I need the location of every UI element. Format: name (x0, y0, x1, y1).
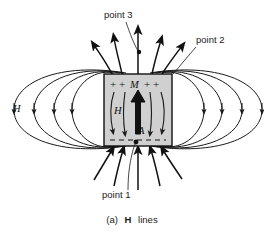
figure-root: + + M + + H A H point 3 (0, 0, 264, 233)
point-2-label: point 2 (196, 34, 225, 45)
top-arrow-2 (114, 38, 122, 74)
plus-sign-4: + (153, 78, 159, 90)
plus-sign-2: + (119, 78, 125, 90)
point-3-label: point 3 (104, 9, 133, 20)
caption-suffix: lines (138, 214, 158, 225)
bottom-arrow-2 (114, 150, 123, 186)
external-h-label: H (12, 103, 22, 114)
bottom-arrow-4 (151, 150, 160, 186)
point-1-label: point 1 (102, 189, 131, 200)
point-3-leader (126, 22, 138, 51)
h-lines-diagram: + + M + + H A H point 3 (0, 0, 264, 233)
area-label: A (137, 125, 145, 136)
bottom-arrow-5 (163, 150, 182, 179)
figure-caption: (a) H lines (106, 214, 158, 225)
plus-sign-1: + (110, 78, 116, 90)
bottom-converging-arrows (94, 150, 182, 190)
magnetization-label: M (129, 79, 140, 90)
point-1-leader (128, 144, 135, 190)
point-3-marker (137, 50, 141, 54)
point-1-marker (134, 140, 139, 145)
bottom-arrow-1 (94, 150, 112, 180)
plus-sign-3: + (144, 78, 150, 90)
caption-symbol: H (125, 214, 132, 225)
caption-prefix: (a) (106, 214, 118, 225)
top-arrow-4 (152, 40, 161, 74)
internal-h-label: H (113, 105, 123, 116)
